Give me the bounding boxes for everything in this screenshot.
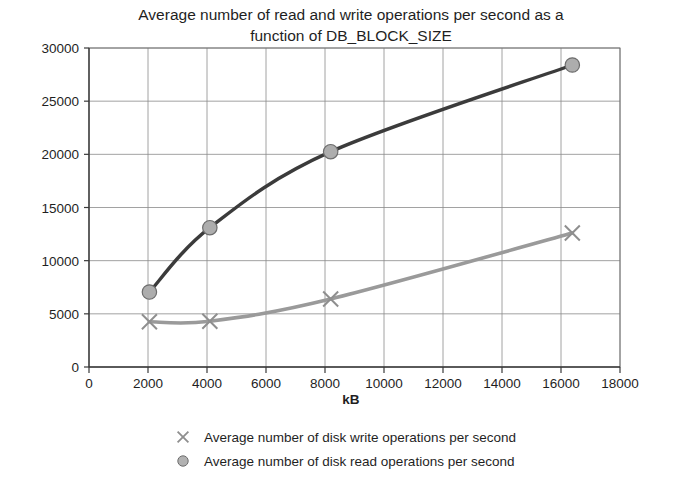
- y-axis-ticks: 050001000015000200002500030000: [41, 41, 89, 375]
- legend-label: Average number of disk read operations p…: [204, 454, 514, 469]
- x-tick-label: 12000: [424, 376, 462, 391]
- legend-item[interactable]: Average number of disk write operations …: [166, 430, 516, 445]
- legend-item[interactable]: Average number of disk read operations p…: [166, 454, 514, 469]
- data-series-layer: [142, 58, 580, 329]
- chart-container: Average number of read and write operati…: [0, 0, 677, 489]
- x-tick-label: 18000: [601, 376, 639, 391]
- chart-title: Average number of read and write operati…: [138, 6, 564, 44]
- x-tick-label: 16000: [542, 376, 580, 391]
- x-tick-label: 10000: [365, 376, 403, 391]
- x-tick-label: 6000: [251, 376, 281, 391]
- x-axis-ticks: 0200040006000800010000120001400016000180…: [85, 367, 639, 391]
- data-point-marker: [565, 58, 579, 72]
- y-tick-label: 0: [71, 360, 79, 375]
- chart-title-line-2: function of DB_BLOCK_SIZE: [250, 27, 452, 44]
- gridlines: [89, 48, 620, 367]
- x-tick-label: 0: [85, 376, 93, 391]
- x-tick-label: 8000: [310, 376, 340, 391]
- y-tick-label: 30000: [41, 41, 79, 56]
- x-tick-label: 14000: [483, 376, 521, 391]
- y-tick-label: 20000: [41, 147, 79, 162]
- data-point-marker: [323, 144, 337, 158]
- x-tick-label: 4000: [192, 376, 222, 391]
- chart-figure: Average number of read and write operati…: [0, 0, 677, 489]
- y-tick-label: 10000: [41, 254, 79, 269]
- data-point-marker: [203, 221, 217, 235]
- series-line: [149, 233, 572, 323]
- chart-title-line-1: Average number of read and write operati…: [138, 6, 564, 23]
- chart-legend: Average number of disk write operations …: [166, 430, 516, 469]
- legend-circle-marker: [178, 456, 188, 466]
- y-tick-label: 5000: [49, 307, 79, 322]
- series-line: [149, 65, 572, 292]
- y-tick-label: 25000: [41, 94, 79, 109]
- data-point-marker: [142, 285, 156, 299]
- legend-label: Average number of disk write operations …: [204, 430, 516, 445]
- x-axis-title: kB: [342, 392, 360, 407]
- x-tick-label: 2000: [133, 376, 163, 391]
- series-read: [142, 58, 579, 299]
- y-tick-label: 15000: [41, 201, 79, 216]
